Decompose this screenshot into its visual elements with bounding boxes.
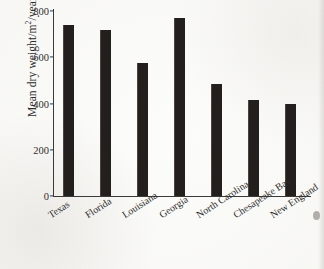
bar [248,100,259,196]
y-tick-mark [50,57,54,58]
x-axis-label: Texas [46,198,71,220]
bar [63,25,74,196]
x-axis-label: Georgia [157,194,190,221]
y-tick-mark [50,195,54,196]
y-tick-mark [50,149,54,150]
y-tick-mark [50,10,54,11]
bar-chart-figure: Mean dry weight/m2/year 0200400600800 Te… [0,0,324,269]
y-axis-title-superscript: 2 [24,21,33,25]
y-tick-mark [50,103,54,104]
y-axis-title: Mean dry weight/m2/year [26,0,38,137]
bar [137,63,148,196]
bar [174,18,185,196]
bar [100,30,111,196]
x-axis-label: Florida [83,195,113,220]
scan-edge-artifact [313,211,320,220]
bar [211,84,222,196]
plot-area: 0200400600800 TexasFloridaLouisianaGeorg… [53,11,311,196]
scan-edge-shadow [318,0,324,269]
